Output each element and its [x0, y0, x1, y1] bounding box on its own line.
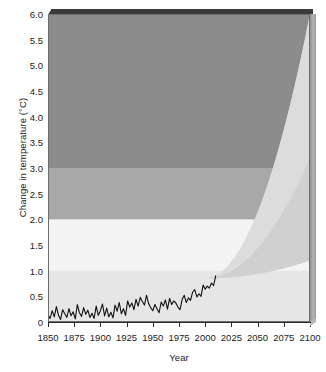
y-tick-label-5.0: 5.0 — [30, 60, 43, 71]
x-tick-label-1925: 1925 — [116, 332, 137, 343]
y-axis-tick-labels: 00.51.01.52.02.53.03.54.04.55.05.56.0 — [0, 0, 43, 372]
x-tick-label-1850: 1850 — [37, 332, 58, 343]
plot-box-right-side-panel — [310, 14, 316, 322]
x-tick-label-2000: 2000 — [195, 332, 216, 343]
plot-area — [48, 14, 310, 322]
climate-projection-chart: Change in temperature (°C) Year 00.51.01… — [0, 0, 326, 372]
x-tick-label-2100: 2100 — [299, 332, 320, 343]
y-axis-line — [48, 14, 49, 323]
y-tick-label-0: 0 — [38, 317, 43, 328]
y-tick-label-1.5: 1.5 — [30, 240, 43, 251]
x-tick-label-2050: 2050 — [247, 332, 268, 343]
x-tick-label-2025: 2025 — [221, 332, 242, 343]
y-tick-label-5.5: 5.5 — [30, 34, 43, 45]
y-tick-label-2.5: 2.5 — [30, 188, 43, 199]
y-tick-label-0.5: 0.5 — [30, 291, 43, 302]
y-tick-label-6.0: 6.0 — [30, 9, 43, 20]
y-tick-label-4.5: 4.5 — [30, 86, 43, 97]
band-above-3C-band — [48, 14, 310, 168]
y-tick-label-1.0: 1.0 — [30, 265, 43, 276]
y-tick-label-4.0: 4.0 — [30, 111, 43, 122]
x-tick-label-1950: 1950 — [142, 332, 163, 343]
y-tick-label-3.5: 3.5 — [30, 137, 43, 148]
x-tick-label-2075: 2075 — [273, 332, 294, 343]
band-below-1C-band — [48, 271, 310, 322]
plot-clip — [48, 14, 310, 322]
x-tick-label-1875: 1875 — [64, 332, 85, 343]
x-tick-label-1900: 1900 — [90, 332, 111, 343]
x-axis-line — [48, 322, 311, 323]
y-tick-label-3.0: 3.0 — [30, 163, 43, 174]
x-tick-label-1975: 1975 — [168, 332, 189, 343]
x-axis-title: Year — [48, 352, 310, 363]
plot-graphics — [48, 14, 310, 322]
y-tick-label-2.0: 2.0 — [30, 214, 43, 225]
